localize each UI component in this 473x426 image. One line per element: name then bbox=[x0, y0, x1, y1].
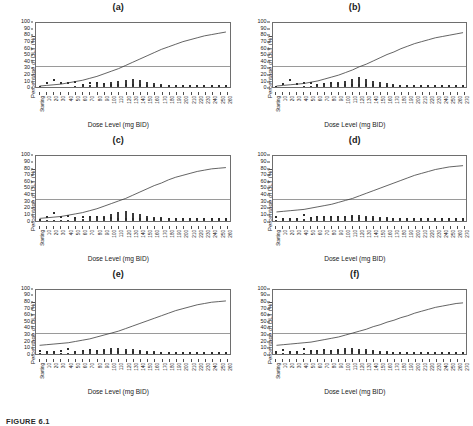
x-tick-mark bbox=[82, 226, 83, 229]
x-tick-mark bbox=[162, 226, 163, 229]
y-tick-mark bbox=[31, 41, 34, 42]
x-tick-mark bbox=[111, 359, 112, 362]
x-tick-label: 230 bbox=[207, 363, 212, 371]
x-tick-mark bbox=[408, 226, 409, 229]
x-tick-label: 190 bbox=[178, 363, 183, 371]
x-tick-label: 180 bbox=[171, 230, 176, 238]
plot-area bbox=[272, 155, 468, 221]
x-tick-mark bbox=[75, 226, 76, 229]
y-tick-label: 30 bbox=[261, 199, 267, 204]
x-tick-mark bbox=[352, 226, 353, 229]
x-tick-label: 70 bbox=[91, 230, 96, 235]
y-tick-mark bbox=[267, 328, 270, 329]
x-tick-label: 270 bbox=[466, 363, 471, 371]
x-tick-label: Starting bbox=[41, 96, 46, 112]
x-tick-label: 20 bbox=[291, 96, 296, 101]
y-tick-mark bbox=[267, 88, 270, 89]
x-tick-label: 40 bbox=[70, 363, 75, 368]
x-tick-mark bbox=[147, 226, 148, 229]
x-tick-label: 140 bbox=[142, 96, 147, 104]
x-tick-label: 30 bbox=[298, 230, 303, 235]
x-tick-mark bbox=[394, 226, 395, 229]
x-tick-label: 270 bbox=[466, 230, 471, 238]
x-tick-mark bbox=[169, 359, 170, 362]
x-tick-label: 120 bbox=[128, 96, 133, 104]
x-tick-mark bbox=[133, 359, 134, 362]
y-tick-mark bbox=[31, 28, 34, 29]
x-tick-label: 50 bbox=[312, 363, 317, 368]
x-axis-ticks: Starting10203040506070809010011012013014… bbox=[35, 92, 231, 97]
y-tick-label: 60 bbox=[261, 46, 267, 51]
x-tick-label: 30 bbox=[62, 363, 67, 368]
y-tick-mark bbox=[31, 188, 34, 189]
y-tick-mark bbox=[31, 335, 34, 336]
y-tick-label: 100 bbox=[258, 153, 267, 158]
x-tick-label: 140 bbox=[142, 230, 147, 238]
y-tick-mark bbox=[31, 161, 34, 162]
y-tick-label: 70 bbox=[24, 39, 30, 44]
y-tick-mark bbox=[31, 221, 34, 222]
y-tick-label: 50 bbox=[24, 319, 30, 324]
x-tick-label: 230 bbox=[438, 230, 443, 238]
y-tick-label: 30 bbox=[24, 332, 30, 337]
x-tick-label: 110 bbox=[120, 96, 125, 103]
x-tick-label: 10 bbox=[284, 230, 289, 235]
y-tick-label: 100 bbox=[21, 153, 30, 158]
panel-e: (e)Percentage of DLT (%)0102030405060708… bbox=[0, 267, 237, 400]
x-tick-mark bbox=[457, 226, 458, 229]
x-tick-label: Starting bbox=[277, 363, 282, 379]
x-tick-mark bbox=[68, 359, 69, 362]
y-tick-mark bbox=[267, 68, 270, 69]
x-tick-mark bbox=[75, 92, 76, 95]
x-axis-label: Dose Level (mg BID) bbox=[0, 388, 237, 395]
x-tick-label: 90 bbox=[106, 96, 111, 101]
x-tick-label: 140 bbox=[375, 96, 380, 104]
x-tick-label: 130 bbox=[368, 363, 373, 371]
y-tick-mark bbox=[31, 35, 34, 36]
x-tick-mark bbox=[373, 226, 374, 229]
y-tick-label: 10 bbox=[24, 212, 30, 217]
x-tick-label: 20 bbox=[55, 96, 60, 101]
dose-toxicity-curve bbox=[273, 290, 467, 354]
y-tick-label: 50 bbox=[24, 186, 30, 191]
y-tick-mark bbox=[267, 55, 270, 56]
x-axis-ticks: Starting10203040506070809010011012013014… bbox=[35, 359, 231, 364]
y-tick-mark bbox=[31, 328, 34, 329]
y-tick-mark bbox=[267, 348, 270, 349]
x-tick-mark bbox=[205, 359, 206, 362]
x-axis-label: Dose Level (mg BID) bbox=[237, 121, 473, 128]
x-tick-label: 240 bbox=[214, 363, 219, 371]
y-tick-label: 10 bbox=[24, 79, 30, 84]
x-tick-label: 110 bbox=[354, 230, 359, 237]
x-tick-label: 70 bbox=[91, 363, 96, 368]
x-tick-label: 120 bbox=[361, 363, 366, 371]
x-tick-label: 160 bbox=[389, 363, 394, 371]
dose-toxicity-curve bbox=[273, 156, 467, 220]
y-tick-mark bbox=[267, 335, 270, 336]
x-tick-label: 30 bbox=[298, 96, 303, 101]
x-tick-mark bbox=[60, 226, 61, 229]
y-tick-label: 80 bbox=[261, 299, 267, 304]
x-tick-mark bbox=[450, 359, 451, 362]
x-tick-label: 250 bbox=[222, 363, 227, 371]
y-tick-mark bbox=[31, 195, 34, 196]
x-tick-label: 160 bbox=[156, 230, 161, 238]
x-tick-label: 110 bbox=[120, 230, 125, 237]
y-tick-label: 60 bbox=[261, 179, 267, 184]
x-tick-mark bbox=[53, 92, 54, 95]
x-tick-label: 170 bbox=[396, 363, 401, 371]
x-tick-label: 250 bbox=[452, 363, 457, 371]
x-tick-label: 120 bbox=[361, 230, 366, 238]
y-tick-label: 100 bbox=[258, 286, 267, 291]
x-tick-label: 10 bbox=[48, 96, 53, 101]
x-tick-mark bbox=[89, 359, 90, 362]
x-tick-mark bbox=[338, 92, 339, 95]
x-tick-mark bbox=[457, 359, 458, 362]
x-tick-mark bbox=[310, 92, 311, 95]
x-tick-label: 120 bbox=[128, 363, 133, 371]
x-tick-mark bbox=[436, 226, 437, 229]
x-tick-mark bbox=[296, 359, 297, 362]
x-tick-label: 80 bbox=[99, 230, 104, 235]
x-tick-label: 230 bbox=[438, 96, 443, 104]
x-tick-label: 200 bbox=[417, 96, 422, 104]
